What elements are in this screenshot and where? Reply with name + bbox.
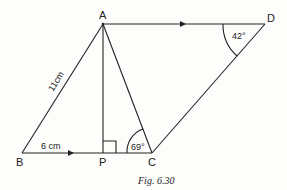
parallel-arrow-BC	[68, 150, 74, 156]
figure-caption: Fig. 6.30	[137, 175, 174, 186]
label-P: P	[99, 156, 106, 168]
length-AB: 11cm	[46, 70, 66, 93]
segment-AC	[103, 24, 152, 153]
label-B: B	[16, 156, 23, 168]
length-BP: 6 cm	[41, 141, 61, 151]
parallel-arrow-AD	[180, 21, 186, 27]
segment-AB	[22, 24, 103, 153]
point-A-dot	[102, 23, 105, 26]
label-C: C	[148, 156, 156, 168]
right-angle-marker	[103, 141, 116, 153]
segment-CD	[152, 24, 265, 153]
angle-D-value: 42°	[232, 31, 246, 41]
label-A: A	[99, 9, 107, 21]
geometry-diagram: A D B P C 11cm 6 cm 69° 42° Fig. 6.30	[0, 0, 287, 190]
angle-C-value: 69°	[131, 142, 145, 152]
label-D: D	[267, 12, 275, 24]
